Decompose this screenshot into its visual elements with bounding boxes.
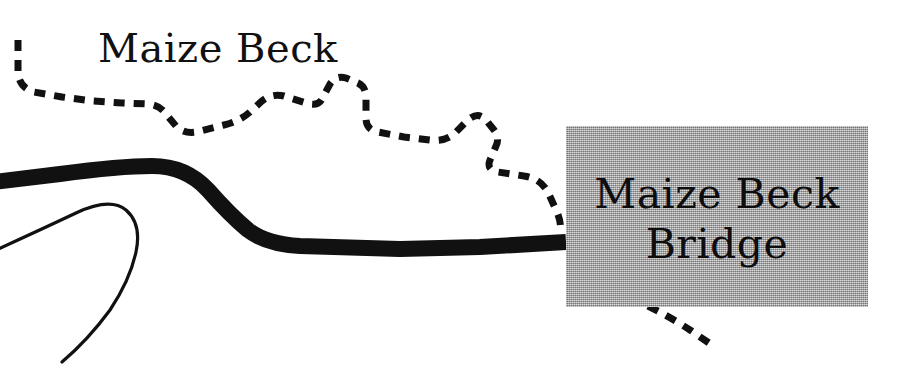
footpath-loop xyxy=(0,204,138,362)
bridge-callout-box: Maize Beck Bridge xyxy=(566,126,868,307)
bridge-label-line-1: Maize Beck xyxy=(594,169,840,219)
map-figure: Maize Beck Maize Beck Bridge xyxy=(0,0,918,380)
stream-label-maize-beck: Maize Beck xyxy=(98,24,338,72)
footpath-path xyxy=(0,204,138,362)
stream-path-lower xyxy=(648,306,712,345)
bridge-label-line-2: Bridge xyxy=(646,219,789,269)
